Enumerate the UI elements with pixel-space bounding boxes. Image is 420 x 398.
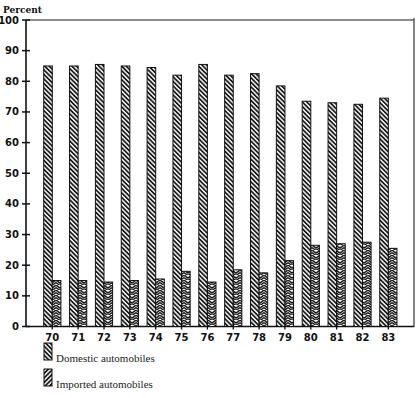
legend-label-imported: Imported automobiles bbox=[56, 378, 153, 390]
bar-imported bbox=[207, 282, 216, 326]
x-tick-label: 79 bbox=[278, 332, 292, 343]
x-tick-label: 76 bbox=[200, 332, 214, 343]
bar-imported bbox=[182, 271, 191, 326]
bar-domestic bbox=[121, 66, 130, 327]
bar-domestic bbox=[147, 68, 156, 327]
y-axis-title: Percent bbox=[3, 5, 43, 15]
legend-label-domestic: Domestic automobiles bbox=[56, 352, 155, 364]
x-tick-label: 71 bbox=[71, 332, 85, 343]
bar-domestic bbox=[276, 86, 285, 327]
bar-imported bbox=[285, 261, 294, 327]
x-tick-label: 74 bbox=[149, 332, 163, 343]
x-tick-label: 83 bbox=[381, 332, 395, 343]
bar-domestic bbox=[199, 64, 208, 326]
y-tick-label: 90 bbox=[5, 45, 19, 56]
bar-domestic bbox=[44, 66, 53, 327]
bar-domestic bbox=[354, 104, 363, 326]
bar-imported bbox=[156, 279, 165, 327]
bars-group bbox=[44, 64, 397, 326]
legend-swatch-domestic bbox=[44, 343, 52, 360]
x-tick-label: 70 bbox=[45, 332, 59, 343]
bar-domestic bbox=[328, 103, 337, 327]
x-tick-label: 75 bbox=[175, 332, 189, 343]
bar-domestic bbox=[302, 101, 311, 326]
bar-imported bbox=[78, 281, 87, 327]
bar-imported bbox=[233, 270, 242, 327]
bar-imported bbox=[104, 282, 113, 326]
bar-domestic bbox=[251, 74, 260, 327]
bar-imported bbox=[130, 281, 139, 327]
y-tick-label: 0 bbox=[12, 321, 19, 332]
y-tick-label: 80 bbox=[5, 76, 19, 87]
bar-imported bbox=[388, 248, 397, 326]
x-tick-label: 73 bbox=[123, 332, 137, 343]
legend-swatch-imported bbox=[44, 369, 52, 386]
bar-chart: Percent 0102030405060708090100 707172737… bbox=[0, 0, 420, 398]
x-tick-label: 82 bbox=[356, 332, 370, 343]
x-tick-label: 78 bbox=[252, 332, 266, 343]
bar-domestic bbox=[380, 98, 389, 326]
y-tick-label: 60 bbox=[5, 137, 19, 148]
bar-domestic bbox=[95, 64, 104, 326]
bar-imported bbox=[363, 242, 372, 326]
bar-domestic bbox=[225, 75, 234, 326]
x-tick-label: 72 bbox=[97, 332, 111, 343]
x-tick-label: 77 bbox=[226, 332, 240, 343]
legend: Domestic automobiles Imported automobile… bbox=[44, 343, 155, 390]
bar-imported bbox=[52, 281, 61, 327]
y-tick-label: 50 bbox=[5, 168, 19, 179]
y-tick-label: 70 bbox=[5, 106, 19, 117]
bar-domestic bbox=[173, 75, 182, 326]
x-tick-label: 80 bbox=[304, 332, 318, 343]
y-tick-label: 30 bbox=[5, 229, 19, 240]
bar-imported bbox=[337, 244, 346, 327]
bar-domestic bbox=[70, 66, 79, 327]
bar-imported bbox=[259, 273, 268, 327]
bar-imported bbox=[311, 245, 320, 326]
y-tick-label: 20 bbox=[5, 260, 19, 271]
y-tick-label: 100 bbox=[0, 15, 19, 26]
y-tick-label: 10 bbox=[5, 290, 19, 301]
x-tick-label: 81 bbox=[330, 332, 344, 343]
y-tick-label: 40 bbox=[5, 198, 19, 209]
